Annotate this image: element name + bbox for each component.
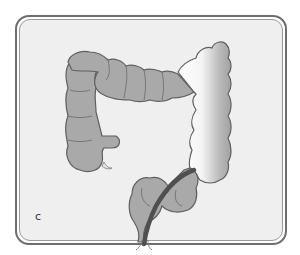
panel-label: c (35, 210, 41, 223)
sigmoid-colon (129, 168, 198, 242)
descending-colon (178, 42, 231, 183)
colon-diagram (0, 0, 300, 255)
appendix (102, 162, 112, 169)
